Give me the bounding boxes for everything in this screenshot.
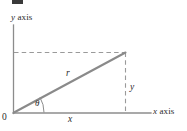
- angle-label: θ: [35, 99, 39, 108]
- radius-label: r: [66, 69, 70, 79]
- x-axis-label: x axis: [153, 107, 174, 116]
- y-axis-label: y axis: [11, 13, 32, 22]
- angle-arc: [40, 97, 44, 112]
- x-component-label: x: [68, 115, 72, 125]
- origin-label: 0: [2, 113, 7, 123]
- x-axis-label-word: axis: [159, 106, 174, 116]
- y-component-label: y: [130, 83, 134, 93]
- coordinate-diagram: y axis x axis 0 r θ x y: [0, 0, 187, 131]
- radius-ray: [14, 53, 126, 113]
- y-axis-label-word: axis: [17, 12, 32, 22]
